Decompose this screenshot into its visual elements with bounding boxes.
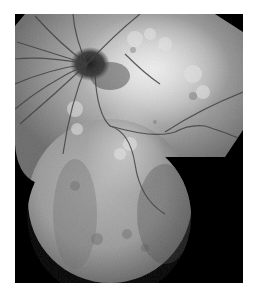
fundus-image-frame	[15, 14, 243, 283]
fundus-montage	[15, 14, 243, 283]
grain-texture	[15, 14, 243, 283]
montage-fields	[15, 14, 243, 283]
